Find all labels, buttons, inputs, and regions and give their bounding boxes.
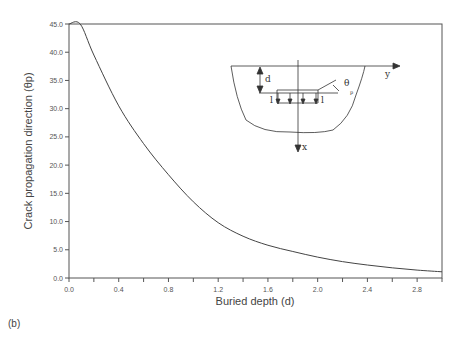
x-tick-label: 0.0 <box>64 286 74 293</box>
x-tick-label: 2.0 <box>313 286 323 293</box>
y-tick-label: 30.0 <box>49 105 63 112</box>
x-tick-label: 1.6 <box>263 286 273 293</box>
panel-label: (b) <box>8 318 20 329</box>
svg-text:θ: θ <box>344 78 349 88</box>
line-chart: 0.05.010.015.020.025.030.035.040.045.00.… <box>0 0 464 337</box>
x-tick-label: 2.8 <box>412 286 422 293</box>
svg-text:p: p <box>350 89 353 96</box>
svg-text:l: l <box>270 95 273 105</box>
svg-text:d: d <box>265 74 271 84</box>
y-axis-label: Crack propagation direction (θp) <box>22 72 34 229</box>
y-tick-label: 35.0 <box>49 77 63 84</box>
y-tick-label: 10.0 <box>49 218 63 225</box>
inset-diagram <box>231 60 400 152</box>
x-tick-label: 2.4 <box>363 286 373 293</box>
x-tick-label: 0.8 <box>164 286 174 293</box>
x-tick-label: 0.4 <box>114 286 124 293</box>
svg-text:x: x <box>302 142 307 152</box>
axes: 0.05.010.015.020.025.030.035.040.045.00.… <box>49 21 442 294</box>
y-tick-label: 5.0 <box>53 246 63 253</box>
x-axis-label: Buried depth (d) <box>216 295 295 307</box>
data-curve <box>69 22 442 272</box>
y-tick-label: 40.0 <box>49 49 63 56</box>
y-tick-label: 0.0 <box>53 275 63 282</box>
y-tick-label: 25.0 <box>49 133 63 140</box>
y-tick-label: 20.0 <box>49 162 63 169</box>
y-tick-label: 45.0 <box>49 21 63 28</box>
svg-text:y: y <box>384 69 391 79</box>
x-tick-label: 1.2 <box>213 286 223 293</box>
inset-labels: d θ p y x l l <box>265 69 391 152</box>
svg-text:l: l <box>321 95 324 105</box>
y-tick-label: 15.0 <box>49 190 63 197</box>
